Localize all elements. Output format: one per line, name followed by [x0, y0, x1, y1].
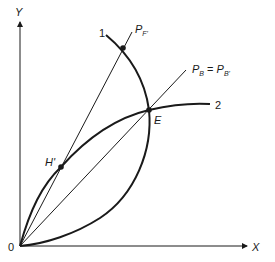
curve-2: [20, 104, 210, 246]
curve-2-label: 2: [215, 99, 221, 111]
origin-label: 0: [8, 241, 14, 253]
edgeworth-box-diagram: Y X 0 1 2 PF' PB = PB' E H': [0, 0, 275, 262]
curve-1-label: 1: [99, 27, 105, 39]
point-e-marker: [146, 107, 152, 113]
diagram-canvas: Y X 0 1 2 PF' PB = PB' E H': [0, 0, 275, 262]
curve-1: [20, 35, 150, 246]
point-pf-marker: [120, 45, 126, 51]
point-h-marker: [58, 164, 64, 170]
x-axis-label: X: [251, 241, 260, 253]
point-e-label: E: [154, 114, 162, 126]
ray-pb-label: PB = PB': [192, 63, 231, 77]
y-axis-label: Y: [15, 6, 23, 18]
ray-pf: [20, 32, 132, 246]
point-h-label: H': [45, 156, 56, 168]
ray-pf-label: PF': [135, 23, 149, 37]
